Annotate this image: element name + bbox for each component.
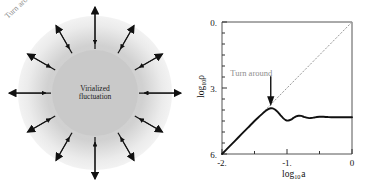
x-tick-label: -1. [282, 158, 292, 168]
y-tick-label: 3. [210, 84, 217, 94]
x-axis-label: log10a [282, 169, 306, 180]
y-tick-label: 0. [210, 18, 217, 28]
chart-panel: -2.-1.00.3.6. Turn around log10ρ [190, 0, 371, 188]
turn-around-label-chart: Turn around [230, 68, 273, 78]
radial-arrow-inward [58, 28, 70, 49]
radial-arrow-inward [30, 119, 51, 131]
y-label-var: ρ [196, 75, 206, 80]
radial-arrow-inward [121, 28, 133, 49]
x-tick-label: -2. [217, 158, 227, 168]
density-curve [222, 108, 352, 154]
x-label-base: log [282, 169, 294, 179]
radial-arrow-inward [58, 137, 70, 158]
left-diagram-panel: Virialized fluctuation Turn around [0, 0, 190, 188]
radial-arrow-inward [30, 56, 51, 68]
x-tick-label: 0 [350, 158, 355, 168]
x-label-sub: 10 [294, 173, 300, 180]
radial-arrow-inward [139, 56, 160, 68]
y-label-base: log [196, 86, 206, 98]
radial-arrow-inward [139, 119, 160, 131]
figure-root: Virialized fluctuation Turn around [0, 0, 371, 188]
x-label-var: a [301, 169, 306, 179]
svg-text:log10a: log10a [282, 169, 306, 180]
density-plot: -2.-1.00.3.6. Turn around log10ρ [190, 0, 371, 188]
y-axis-label: log10ρ [196, 75, 207, 98]
y-tick-label: 6. [210, 150, 217, 160]
svg-text:log10ρ: log10ρ [196, 75, 207, 98]
radial-arrow-inward [121, 137, 133, 158]
radial-arrows-group [0, 0, 190, 188]
arrow-set [9, 7, 181, 179]
